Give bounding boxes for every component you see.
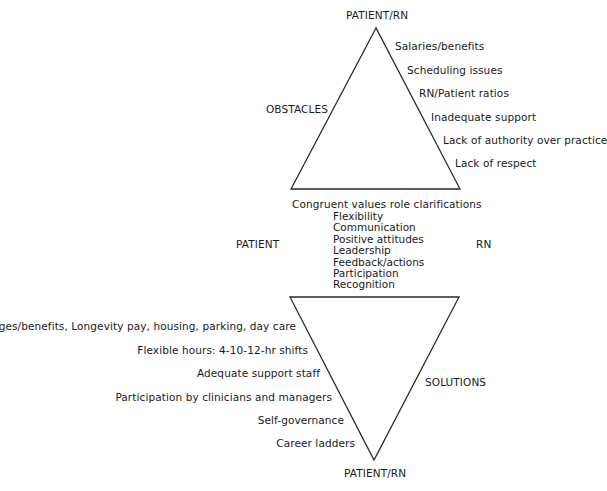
solution-item: Wages/benefits, Longevity pay, housing, …: [0, 320, 296, 332]
solutions-label: SOLUTIONS: [425, 376, 486, 388]
obstacle-item: Inadequate support: [431, 111, 536, 123]
solution-item: Participation by clinicians and managers: [115, 391, 332, 403]
obstacle-item: RN/Patient ratios: [419, 87, 509, 99]
patient-label: PATIENT: [236, 238, 279, 250]
middle-header: Congruent values role clarifications: [292, 198, 482, 210]
obstacle-item: Lack of respect: [455, 157, 536, 169]
factor-item: Recognition: [333, 279, 424, 290]
solution-item: Self-governance: [258, 414, 344, 426]
solution-item: Adequate support staff: [197, 367, 320, 379]
rn-label: RN: [476, 238, 491, 250]
middle-factor-list: Flexibility Communication Positive attit…: [333, 211, 424, 291]
obstacle-item: Salaries/benefits: [395, 40, 484, 52]
factor-item: Leadership: [333, 245, 424, 256]
top-apex-label: PATIENT/RN: [346, 9, 408, 21]
solution-item: Flexible hours: 4-10-12-hr shifts: [137, 344, 308, 356]
solution-item: Career ladders: [276, 437, 355, 449]
bottom-apex-label: PATIENT/RN: [344, 467, 406, 479]
obstacle-item: Scheduling issues: [407, 64, 503, 76]
obstacle-item: Lack of authority over practice: [443, 134, 607, 146]
obstacles-label: OBSTACLES: [266, 103, 328, 115]
